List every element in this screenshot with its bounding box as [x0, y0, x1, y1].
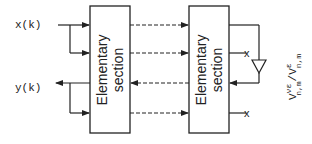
section-2-title-line1: Elementary	[193, 35, 209, 106]
ratio-label: Vνεn,m/Vεn,m	[284, 54, 303, 100]
ratio-den-sub: n,m	[294, 54, 303, 69]
lattice-filter-diagram: x(k) y(k) Elementary section Elementary …	[0, 0, 312, 144]
ratio-num-sup: νε	[284, 84, 293, 94]
elementary-section-2: Elementary section	[189, 6, 229, 133]
ratio-num-sub: n,m	[294, 81, 303, 96]
elementary-section-1: Elementary section	[90, 6, 130, 133]
ratio-den-sup: ε	[284, 63, 293, 68]
amplifier-triangle-icon	[252, 60, 266, 73]
input-x-path	[58, 25, 89, 53]
terminal-x-mark-1: x	[244, 47, 250, 59]
section-1-title-line2: section	[110, 48, 126, 92]
ratio-slash: /	[287, 75, 299, 82]
svg-text:Vνεn,m/Vεn,m: Vνεn,m/Vεn,m	[284, 54, 303, 100]
section-connectors	[130, 25, 189, 113]
input-x-label: x(k)	[15, 19, 41, 31]
section-2-title-line2: section	[209, 48, 225, 92]
output-y-path	[56, 83, 90, 113]
output-y-label: y(k)	[15, 82, 41, 94]
section-1-title-line1: Elementary	[94, 35, 110, 106]
terminal-x-mark-2: x	[244, 107, 250, 119]
